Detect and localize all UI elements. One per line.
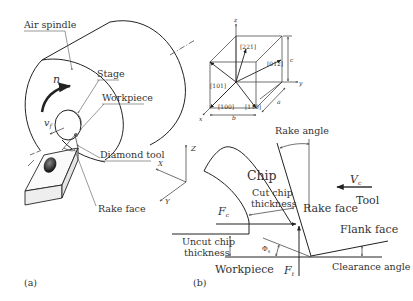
svg-text:z: z: [233, 16, 238, 23]
callout-workpiece: Workpiece: [80, 92, 153, 130]
svg-text:b: b: [232, 114, 236, 121]
uncut-chip-thickness-label: Uncut chip: [182, 236, 235, 247]
flank-face-line: [311, 241, 388, 256]
svg-text:Workpiece: Workpiece: [102, 92, 153, 103]
svg-text:x: x: [199, 115, 203, 122]
rotation-symbol: n: [53, 73, 60, 86]
svg-text:a: a: [277, 98, 281, 105]
chip-label: Chip: [247, 168, 277, 183]
uncut-chip-thickness-label-2: thickness: [184, 247, 230, 258]
panel-b: Rake angle Chip Cut chip thickness Rake …: [172, 125, 411, 288]
stage: [55, 110, 81, 140]
callout-diamond-tool: Diamond tool: [77, 145, 165, 161]
cut-chip-thickness-label-2: thickness: [251, 198, 297, 209]
svg-text:y: y: [298, 79, 303, 87]
svg-text:Rake face: Rake face: [98, 203, 146, 214]
workpiece-label: Workpiece: [215, 263, 274, 276]
callout-air-spindle: Air spindle: [23, 19, 77, 70]
svg-text:Z: Z: [190, 145, 196, 153]
svg-text:Diamond tool: Diamond tool: [100, 149, 165, 160]
svg-text:Y: Y: [165, 198, 171, 206]
panel-a-label: (a): [24, 277, 37, 288]
flank-face-label: Flank face: [340, 223, 398, 236]
svg-text:Stage: Stage: [97, 68, 125, 79]
svg-text:[100]: [100]: [218, 103, 234, 110]
svg-text:X: X: [157, 160, 164, 168]
svg-text:Air spindle: Air spindle: [23, 19, 77, 30]
svg-text:[110]: [110]: [245, 103, 261, 110]
cut-chip-thickness-label: Cut chip: [252, 187, 293, 198]
panel-a: n vf Air spindle Stage: [23, 19, 196, 288]
shear-angle-symbol: Φs: [262, 245, 271, 254]
thrust-force-symbol: Ft: [283, 264, 295, 277]
diamond-tool: [25, 135, 78, 205]
panel-b-label: (b): [193, 277, 207, 288]
feed-velocity-symbol: vf: [44, 117, 53, 130]
crystal-cube: z y x [221] [012] [101] [100] [110] c b …: [199, 16, 303, 122]
rotation-arrow: [42, 86, 70, 112]
rake-face-label: Rake face: [303, 202, 358, 215]
cut-chip-thickness-arrow: [249, 208, 294, 215]
machining-diagram: n vf Air spindle Stage: [0, 0, 413, 301]
cutting-force-symbol: Fc: [217, 205, 230, 218]
cutting-velocity-symbol: Vc: [350, 173, 362, 186]
rake-angle-label: Rake angle: [275, 125, 329, 136]
svg-text:[012]: [012]: [267, 60, 283, 67]
clearance-angle-label: Clearance angle: [332, 261, 411, 272]
svg-text:[101]: [101]: [210, 82, 226, 89]
svg-text:c: c: [290, 56, 294, 63]
tool-label: Tool: [356, 194, 380, 207]
svg-text:[221]: [221]: [240, 43, 256, 50]
